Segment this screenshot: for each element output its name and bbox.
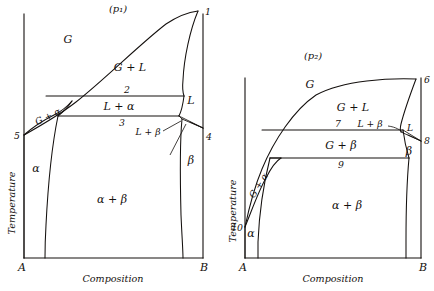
p2-region-G: G [306, 78, 315, 91]
p1-region-G-plus-alpha: G + α [33, 105, 63, 127]
p1-y-axis-label: Temperature [6, 171, 17, 234]
p1-panel-label: (p₁) [109, 3, 127, 14]
p1-L-lower-boundary [179, 96, 184, 116]
panel-p1: (p₁) G G + L G + α L + α L + β L α β α +… [6, 3, 213, 284]
p1-point-5: 5 [14, 130, 20, 141]
p2-x-axis-label: Composition [302, 273, 363, 284]
p1-region-alpha-plus-beta: α + β [97, 193, 127, 206]
p2-axis-end-B: B [418, 261, 427, 274]
p2-region-L: L [406, 122, 413, 133]
p2-region-alpha: α [247, 227, 255, 240]
p2-panel-label: (p₂) [304, 50, 322, 61]
p1-region-beta: β [187, 154, 194, 167]
p2-region-alpha-plus-beta: α + β [332, 199, 362, 212]
p1-wedge-leader-down [170, 124, 186, 155]
p2-gas-boundary-curve [245, 79, 416, 227]
p2-point-8: 8 [424, 135, 430, 146]
p2-wedge-inner [408, 135, 421, 141]
p2-region-G-plus-beta: G + β [325, 139, 356, 152]
p2-region-beta: β [405, 145, 412, 158]
p1-liquidus-right-curve [183, 11, 198, 96]
p2-region-G-plus-alpha: G + α [246, 170, 270, 199]
p1-region-G: G [64, 33, 73, 46]
p2-point-7: 7 [335, 118, 341, 129]
p2-beta-solvus-curve [406, 158, 409, 258]
p1-alpha-solvus-curve [45, 116, 58, 258]
p2-point-6: 6 [424, 74, 430, 85]
p1-region-L: L [186, 94, 194, 107]
p1-region-G-plus-L: G + L [114, 61, 146, 74]
p1-region-alpha: α [32, 162, 40, 175]
p1-point-3: 3 [119, 117, 125, 128]
phase-diagram-svg: (p₁) G G + L G + α L + α L + β L α β α +… [0, 0, 434, 291]
p1-point-2: 2 [123, 84, 130, 95]
p1-x-axis-label: Composition [82, 273, 143, 284]
phase-diagram-figure: (p₁) G G + L G + α L + α L + β L α β α +… [0, 0, 434, 291]
p2-region-L-plus-beta: L + β [357, 118, 383, 129]
p1-wedge-inner [190, 122, 203, 128]
p1-region-L-plus-alpha: L + α [103, 100, 136, 113]
p2-region-G-plus-L: G + L [337, 101, 369, 114]
p2-y-axis-label: Temperature [227, 179, 238, 242]
p1-region-L-plus-beta: L + β [135, 126, 161, 137]
panel-p2: (p₂) G G + L L + β L G + β G + α β α α +… [227, 50, 431, 284]
p1-beta-solvus-curve [180, 119, 183, 258]
p2-point-9: 9 [338, 159, 344, 170]
p1-point-1: 1 [205, 6, 211, 17]
p1-point-4: 4 [205, 131, 212, 142]
p1-lbeta-leader [163, 121, 181, 131]
p1-axis-end-B: B [199, 261, 208, 274]
p2-axis-start-A: A [238, 261, 247, 274]
p1-axis-start-A: A [17, 261, 26, 274]
